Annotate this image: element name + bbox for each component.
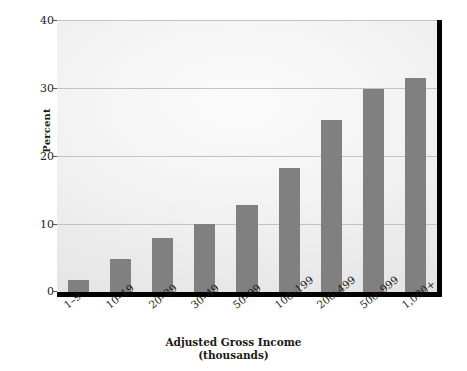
x-axis-title-line2: (thousands): [0, 349, 467, 362]
y-axis-tick-labels: 40 30 20 10 0: [24, 0, 54, 371]
bar: [321, 120, 342, 292]
x-axis-title: Adjusted Gross Income (thousands): [0, 336, 467, 362]
x-axis-title-line1: Adjusted Gross Income: [0, 336, 467, 349]
bar: [236, 205, 257, 292]
bar: [363, 89, 384, 292]
bar: [405, 78, 426, 292]
y-tick-label: 30: [28, 83, 54, 94]
y-tick-label: 10: [28, 219, 54, 230]
y-tick-label: 40: [28, 15, 54, 26]
bar: [279, 168, 300, 292]
bar: [68, 280, 89, 292]
y-tick-label: 0: [28, 286, 54, 297]
y-tick-label: 20: [28, 151, 54, 162]
x-tick-label: 1–9: [61, 290, 83, 311]
plot-area: [57, 20, 437, 292]
gridline-40: [57, 20, 437, 21]
bar-chart-figure: Percent 40 30 20 10 0 1–9: [0, 0, 467, 371]
